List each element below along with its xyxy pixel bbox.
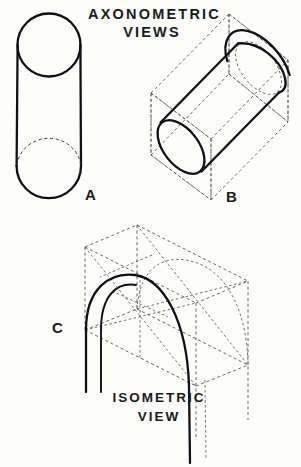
figure-c-box-top-right-edge [196,281,248,303]
figure-c-label: C [52,319,63,336]
figure-c-front-arch-inner [101,285,136,330]
drawing-sheet: AXONOMETRIC VIEWS A B C ISOMETRIC VIEW [0,0,301,467]
figure-c-box-top-front-edge [85,247,196,303]
figure-a-label: A [85,186,96,203]
figure-b-box-edge-top-diag [211,60,288,139]
figure-c-box-spring-back-edge [137,309,248,365]
caption-line-2: VIEW [100,409,218,424]
figure-b-near-ellipse [148,112,214,182]
title-line-1: AXONOMETRIC [88,6,216,22]
figure-b-box-edge-bottom-left [151,74,229,155]
figure-b-box-edge-bottom-right [211,122,288,200]
figure-c-box-top-left-edge [85,225,137,247]
figure-b-lower-element [202,93,280,172]
figure-a-vertical-cylinder [17,14,81,199]
figure-c-back-diagonal-2 [137,281,248,309]
figure-c-box-top-back-edge [137,225,248,281]
figure-a-hidden-bottom-arc [17,138,81,165]
figure-c-box-spring-right-edge [196,365,248,386]
caption-line-1: ISOMETRIC [100,390,218,405]
figure-a-bottom-arc [17,166,81,198]
figure-b-far-half-ellipse [216,18,293,100]
figure-c-back-arch-hidden [137,259,248,365]
figure-a-right-side [80,45,81,166]
figure-c-front-mid-horizontal [112,291,168,317]
figure-a-left-side [17,45,18,166]
title-line-2: VIEWS [88,24,216,40]
figure-b-label: B [226,188,237,205]
figure-a-top-circle [18,14,81,77]
figure-c-isometric-arch [85,225,248,463]
figure-b-oblique-cylinder [148,14,293,200]
